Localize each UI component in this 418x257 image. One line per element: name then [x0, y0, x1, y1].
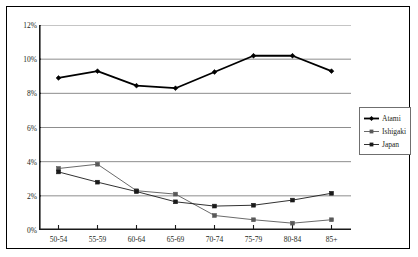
legend-marker	[370, 130, 374, 134]
y-axis-labels: 12%10%8%6%4%2%0%	[7, 25, 37, 230]
series-japan	[57, 170, 334, 208]
legend-item: Japan	[363, 138, 407, 151]
x-axis-tick-label: 55-59	[89, 235, 107, 244]
data-point	[174, 200, 178, 204]
plot-area	[39, 25, 351, 230]
data-point	[329, 69, 334, 74]
data-point	[213, 204, 217, 208]
data-point	[213, 214, 217, 218]
data-point	[330, 191, 334, 195]
data-point	[291, 221, 295, 225]
x-axis-tick-label: 50-54	[50, 235, 68, 244]
data-point	[252, 218, 256, 222]
y-axis-tick-label: 10%	[23, 55, 37, 64]
y-axis-tick-label: 12%	[23, 21, 37, 30]
chart-canvas	[39, 25, 351, 230]
data-point	[252, 203, 256, 207]
x-axis-labels: 50-5455-5960-6465-6970-7475-7980-8485+	[39, 235, 351, 249]
data-point	[56, 76, 61, 81]
data-point	[134, 83, 139, 88]
x-axis-tick-label: 75-79	[245, 235, 263, 244]
series-ishigaki	[57, 162, 334, 225]
x-axis-tick-label: 65-69	[167, 235, 185, 244]
chart-frame: 12%10%8%6%4%2%0% 50-5455-5960-6465-6970-…	[6, 6, 410, 249]
data-point	[95, 69, 100, 74]
data-point	[57, 170, 61, 174]
chart-legend: AtamiIshigakiJapan	[359, 107, 411, 155]
y-axis-tick-label: 2%	[27, 191, 37, 200]
y-axis-tick-label: 8%	[27, 89, 37, 98]
data-point	[291, 198, 295, 202]
legend-item: Atami	[363, 112, 407, 125]
x-axis-tick-label: 80-84	[284, 235, 302, 244]
data-point	[96, 162, 100, 166]
legend-label: Japan	[382, 140, 399, 149]
legend-swatch-ishigaki	[363, 127, 380, 136]
data-point	[135, 190, 139, 194]
data-point	[96, 180, 100, 184]
legend-label: Atami	[382, 114, 401, 123]
data-point	[330, 218, 334, 222]
data-point	[173, 86, 178, 91]
legend-marker	[370, 143, 374, 147]
x-axis-tick-label: 60-64	[128, 235, 146, 244]
x-axis-tick-label: 85+	[326, 235, 338, 244]
y-axis-tick-label: 4%	[27, 157, 37, 166]
legend-swatch-atami	[363, 114, 380, 123]
legend-item: Ishigaki	[363, 125, 407, 138]
data-point	[251, 53, 256, 58]
series-line	[59, 164, 332, 223]
x-axis-tick-label: 70-74	[206, 235, 224, 244]
y-axis-tick-label: 0%	[27, 226, 37, 235]
y-axis-tick-label: 6%	[27, 123, 37, 132]
legend-swatch-japan	[363, 140, 380, 149]
legend-label: Ishigaki	[382, 127, 406, 136]
data-point	[174, 192, 178, 196]
data-point	[212, 70, 217, 75]
legend-marker	[369, 116, 374, 121]
data-point	[290, 53, 295, 58]
